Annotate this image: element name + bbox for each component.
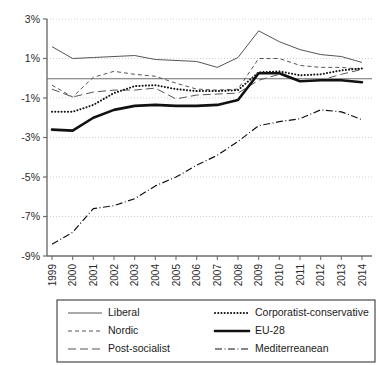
series-line-post-socialist xyxy=(52,69,362,99)
y-tick-label: 3% xyxy=(25,13,40,25)
y-tick-label: -1% xyxy=(21,92,40,104)
x-tick-label: 2005 xyxy=(171,264,182,287)
x-tick-label: 2007 xyxy=(212,264,223,287)
x-tick-label: 2002 xyxy=(109,264,120,287)
legend-label-mediterreanean: Mediterreanean xyxy=(255,342,329,354)
y-tick-label: -3% xyxy=(21,131,40,143)
y-axis-ticks: 3%1%-1%-3%-5%-7%-9% xyxy=(21,13,47,262)
x-axis-ticks: 1999200020012002200320042005200620072008… xyxy=(47,256,368,286)
x-tick-label: 2011 xyxy=(295,264,306,286)
legend-label-post-socialist: Post-socialist xyxy=(108,342,170,354)
x-tick-label: 2006 xyxy=(191,264,202,287)
x-tick-label: 2000 xyxy=(67,264,78,287)
x-tick-label: 2012 xyxy=(315,264,326,287)
y-tick-label: -9% xyxy=(21,250,40,262)
series-line-liberal xyxy=(52,31,362,68)
x-tick-label: 2008 xyxy=(233,264,244,287)
x-tick-label: 2003 xyxy=(129,264,140,287)
x-tick-label: 2001 xyxy=(88,264,99,287)
legend: LiberalCorporatist-conservativeNordicEU-… xyxy=(68,306,369,354)
x-tick-label: 1999 xyxy=(47,264,58,287)
chart-container: 3%1%-1%-3%-5%-7%-9% 19992000200120022003… xyxy=(0,0,379,365)
x-tick-label: 2004 xyxy=(150,264,161,287)
legend-label-eu-28: EU-28 xyxy=(255,324,285,336)
legend-label-corporatist-conservative: Corporatist-conservative xyxy=(255,306,369,318)
legend-label-nordic: Nordic xyxy=(108,324,138,336)
y-tick-label: -7% xyxy=(21,210,40,222)
y-tick-label: 1% xyxy=(25,52,40,64)
legend-label-liberal: Liberal xyxy=(108,306,140,318)
x-tick-label: 2014 xyxy=(357,264,368,287)
x-tick-label: 2010 xyxy=(274,264,285,287)
y-tick-label: -5% xyxy=(21,171,40,183)
x-tick-label: 2009 xyxy=(253,264,264,287)
line-chart: 3%1%-1%-3%-5%-7%-9% 19992000200120022003… xyxy=(0,0,379,365)
x-tick-label: 2013 xyxy=(336,264,347,287)
